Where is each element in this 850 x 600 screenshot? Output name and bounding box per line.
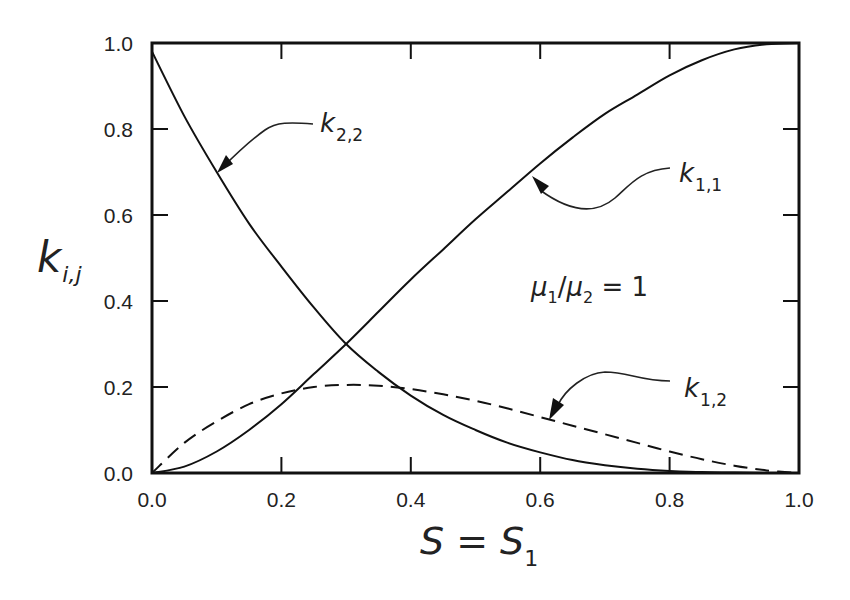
y-tick-labels: 0.00.20.40.60.81.0 bbox=[104, 32, 134, 485]
x-axis-label: S = S1 bbox=[420, 519, 538, 571]
viscosity-ratio-label: μ1/μ2 = 1 bbox=[530, 272, 648, 307]
x-tick-label: 0.8 bbox=[655, 488, 684, 511]
arrow-k22 bbox=[222, 123, 313, 168]
label-k22: k2,2 bbox=[320, 108, 363, 145]
x-tick-label: 1.0 bbox=[784, 488, 813, 511]
x-tick-label: 0.0 bbox=[137, 488, 166, 511]
annotation-k12: k1,2 bbox=[549, 372, 727, 420]
x-tick-labels: 0.00.20.40.60.81.0 bbox=[137, 488, 813, 511]
arrow-k11 bbox=[540, 168, 670, 209]
y-tick-label: 0.0 bbox=[104, 462, 133, 485]
arrowhead-k12-icon bbox=[549, 398, 564, 420]
label-k11: k1,1 bbox=[679, 158, 722, 195]
y-axis-label: ki,j bbox=[37, 233, 82, 287]
y-tick-label: 0.8 bbox=[104, 118, 133, 141]
y-tick-label: 0.4 bbox=[104, 290, 134, 313]
y-tick-label: 0.2 bbox=[104, 376, 133, 399]
y-tick-label: 1.0 bbox=[104, 32, 133, 55]
arrowhead-k11-icon bbox=[532, 176, 549, 194]
y-tick-label: 0.6 bbox=[104, 204, 133, 227]
x-tick-label: 0.4 bbox=[396, 488, 426, 511]
annotation-k22: k2,2 bbox=[217, 108, 363, 173]
annotation-k11: k1,1 bbox=[532, 158, 722, 209]
label-k12: k1,2 bbox=[684, 373, 727, 410]
x-tick-label: 0.2 bbox=[267, 488, 296, 511]
arrow-k12 bbox=[558, 372, 670, 405]
annotation-viscosity-ratio: μ1/μ2 = 1 bbox=[530, 272, 648, 307]
relative-permeability-chart: 0.00.20.40.60.81.0 0.00.20.40.60.81.0 k2… bbox=[0, 0, 850, 600]
x-tick-label: 0.6 bbox=[526, 488, 555, 511]
arrowhead-k22-icon bbox=[217, 155, 233, 173]
